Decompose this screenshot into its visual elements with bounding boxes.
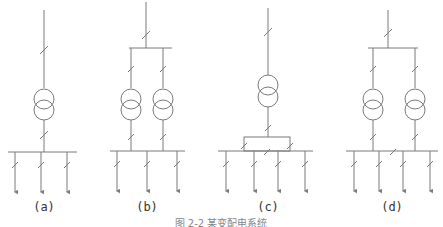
panel-a-label: (a) [33, 200, 55, 214]
panel-d-label: (d) [381, 200, 403, 214]
panel-c-label: (c) [257, 200, 279, 214]
distribution-diagrams [0, 0, 443, 227]
figure-caption: 图 2-2 某变配电系统 [175, 215, 268, 227]
transformer-icon [34, 89, 54, 109]
bus-tie [244, 137, 290, 151]
panel-a [8, 10, 77, 192]
panel-c [218, 8, 313, 191]
panel-d [346, 10, 438, 191]
panel-b-label: (b) [136, 200, 158, 214]
feeders [12, 152, 70, 192]
panel-b [110, 2, 185, 191]
